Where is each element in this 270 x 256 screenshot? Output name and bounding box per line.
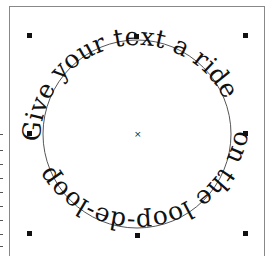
center-marker-icon: × (134, 129, 142, 139)
handle-top-left[interactable] (27, 33, 32, 38)
handle-top-right[interactable] (243, 33, 248, 38)
curved-text-top[interactable]: Give your text a ride (17, 22, 245, 143)
handle-top-center[interactable] (134, 34, 139, 39)
handle-middle-right[interactable] (243, 131, 248, 136)
curved-text-bottom[interactable]: on the loop-de-loop (32, 129, 258, 238)
handle-bottom-left[interactable] (27, 231, 32, 236)
handle-middle-left[interactable] (27, 131, 32, 136)
handle-bottom-center[interactable] (135, 233, 140, 238)
handle-bottom-right[interactable] (243, 231, 248, 236)
